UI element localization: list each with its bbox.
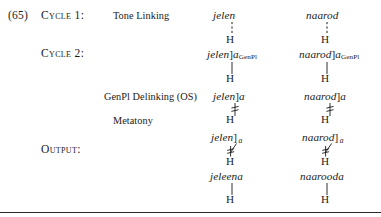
form-stem: jelen	[207, 48, 229, 60]
form-naarod-cycle2: naarod]aGenPl	[299, 48, 359, 61]
form-jelen-output: jeleena	[210, 170, 243, 182]
form-subscript: GenPl	[341, 53, 359, 61]
form-naarod-tone-linking: naarod	[306, 9, 339, 21]
rule-label-tone-linking: Tone Linking	[113, 10, 169, 21]
form-naarod-genpl-delinking: naarod]a	[304, 90, 346, 102]
tone-jelen-cycle2: H	[226, 72, 234, 84]
tone-naarod-cycle2: H	[321, 72, 329, 84]
form-stem: naarod	[304, 90, 337, 102]
form-stem: jelen	[213, 9, 235, 21]
form-stem: jeleena	[210, 170, 243, 182]
bottom-rule	[0, 212, 381, 213]
stage-label-output: Output:	[41, 143, 81, 155]
form-suffix: a	[239, 90, 245, 102]
tone-jelen-genpl-delinking: H	[226, 113, 234, 125]
example-number: (65)	[8, 9, 28, 21]
tone-naarod-metatony: H	[321, 155, 329, 167]
form-stem: jelen	[211, 131, 233, 143]
tone-naarod-output: H	[321, 193, 329, 205]
rule-label-metatony: Metatony	[113, 115, 153, 126]
form-stem: naarooda	[300, 170, 344, 182]
form-subscript: GenPl	[239, 53, 257, 61]
form-suffix: a	[340, 90, 346, 102]
form-subscript-italic: a	[338, 136, 343, 145]
tone-naarod-cycle1: H	[321, 33, 329, 45]
tone-naarod-genpl-delinking: H	[321, 113, 329, 125]
derivation-figure: (65) Cycle 1: Cycle 2: Output: Tone Link…	[0, 0, 381, 217]
rule-label-genpl-delinking: GenPl Delinking (OS)	[104, 91, 197, 102]
stage-label-cycle2: Cycle 2:	[41, 47, 84, 59]
tone-jelen-metatony: H	[226, 155, 234, 167]
form-jelen-cycle2: jelen]aGenPl	[207, 48, 257, 61]
form-jelen-tone-linking: jelen	[213, 9, 235, 21]
form-stem: naarod	[299, 48, 332, 60]
form-jelen-genpl-delinking: jelen]a	[213, 90, 245, 102]
form-naarod-output: naarooda	[300, 170, 344, 182]
form-stem: naarod	[306, 9, 339, 21]
form-stem: jelen	[213, 90, 235, 102]
tone-jelen-output: H	[226, 193, 234, 205]
form-stem: naarod	[302, 131, 335, 143]
stage-label-cycle1: Cycle 1:	[41, 9, 84, 21]
tone-jelen-cycle1: H	[226, 33, 234, 45]
